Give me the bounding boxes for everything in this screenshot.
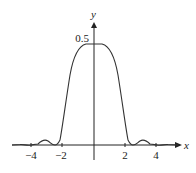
- y-axis-arrow-icon: [91, 22, 97, 28]
- data-curve: [12, 44, 178, 145]
- tick-label-neg2: −2: [55, 149, 67, 161]
- chart: −4 −2 2 4 0.5 x y: [0, 0, 196, 173]
- tick-label-2: 2: [122, 149, 128, 161]
- x-axis-label: x: [183, 139, 189, 151]
- y-axis-label: y: [90, 8, 96, 20]
- tick-label-neg4: −4: [25, 149, 37, 161]
- tick-label-4: 4: [153, 149, 159, 161]
- tick-label-y-0-5: 0.5: [75, 32, 89, 44]
